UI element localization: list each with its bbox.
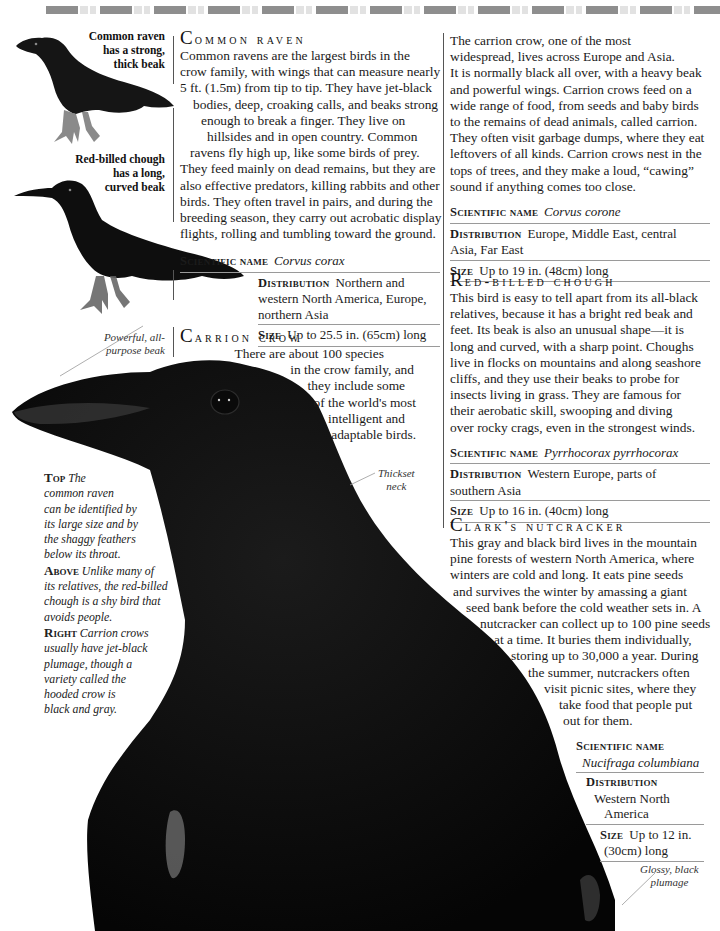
- fact-scientific-name: Scientific nameCorvus corax: [180, 251, 440, 273]
- fact-scientific-name: Scientific nameCorvus corone: [450, 202, 710, 224]
- neck-caption: Thickset neck: [378, 467, 415, 493]
- fact-distribution: DistributionEurope, Middle East, central…: [450, 224, 710, 261]
- section-body: The carrion crow, one of the most widesp…: [450, 33, 710, 195]
- section-title: Carrion crow: [180, 328, 440, 346]
- section-title: Common raven: [180, 30, 440, 48]
- raven-caption: Common raven has a strong, thick beak: [80, 29, 165, 71]
- column-rule-left-low: [173, 270, 174, 300]
- fact-distribution: DistributionWestern Europe, parts of sou…: [450, 464, 710, 501]
- section-common-raven: Common raven Common ravens are the large…: [180, 30, 440, 347]
- caption-above-label: Above: [44, 563, 79, 578]
- fact-scientific-name: Scientific namePyrrhocorax pyrrhocorax: [450, 443, 710, 465]
- section-carrion-crow-intro: Carrion crow There are about 100 species…: [180, 328, 440, 443]
- beak-caption: Powerful, all- purpose beak: [90, 331, 165, 357]
- section-body: This bird is easy to tell apart from its…: [450, 290, 710, 436]
- chough-caption: Red-billed chough has a long, curved bea…: [60, 152, 165, 194]
- fact-size: SizeUp to 12 in. (30cm) long: [600, 825, 704, 862]
- caption-right-label: Right: [44, 625, 77, 640]
- plumage-caption: Glossy, black plumage: [640, 863, 699, 889]
- section-title: Clark's nutcracker: [450, 517, 715, 535]
- section-body: Common ravens are the largest birds in t…: [180, 48, 440, 242]
- fact-distribution: Distribution Western North America: [586, 773, 704, 825]
- column-rule-left-mid: [173, 108, 174, 222]
- fact-scientific-name: Scientific name Nucifraga columbiana: [576, 737, 704, 773]
- column-rule-left-top: [173, 36, 174, 84]
- caption-top-label: Top: [44, 470, 65, 485]
- section-body: This gray and black bird lives in the mo…: [450, 535, 715, 729]
- section-title: Red-billed chough: [450, 272, 710, 290]
- section-red-billed-chough: Red-billed chough This bird is easy to t…: [450, 272, 710, 523]
- column-rule-left-bottom: [173, 327, 174, 357]
- section-carrion-crow: The carrion crow, one of the most widesp…: [450, 33, 710, 282]
- section-intro: There are about 100 species in the crow …: [180, 346, 416, 443]
- fact-distribution: DistributionNorthern and western North A…: [258, 273, 440, 326]
- section-clarks-nutcracker: Clark's nutcracker This gray and black b…: [450, 517, 715, 862]
- column-rule-center: [443, 33, 444, 528]
- photo-captions: Top The common raven can be identified b…: [44, 470, 184, 718]
